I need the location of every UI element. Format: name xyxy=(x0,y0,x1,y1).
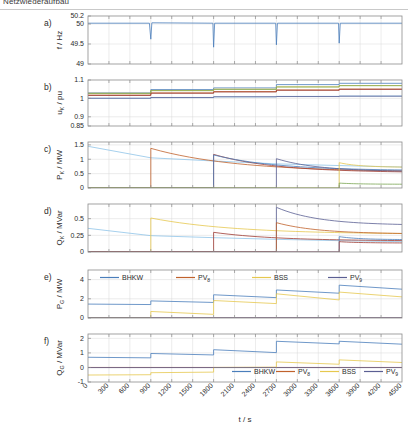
y-tick-label: 0.5 xyxy=(74,215,84,222)
svg-text:3000: 3000 xyxy=(282,382,298,398)
svg-text:2700: 2700 xyxy=(261,382,277,398)
x-tick-label: 3600 xyxy=(324,382,340,398)
x-tick-label: 3000 xyxy=(282,382,298,398)
panel-a: 4949.55050.2a)f / Hz xyxy=(44,12,402,67)
svg-text:1800: 1800 xyxy=(198,382,214,398)
x-tick-label: 600 xyxy=(117,382,130,395)
y-tick-label: 1 xyxy=(80,349,84,356)
svg-text:4500: 4500 xyxy=(387,382,403,398)
series-group xyxy=(88,23,402,47)
series-line xyxy=(88,242,402,252)
y-tick-label: 1 xyxy=(80,95,84,102)
legend-label: PV8 xyxy=(298,368,310,377)
series-group xyxy=(88,146,402,188)
figure-canvas: 4949.55050.2a)f / Hz0.850.911.1b)uK / pu… xyxy=(0,0,408,429)
y-tick-label: 1.1 xyxy=(74,76,84,83)
title-divider xyxy=(0,9,408,10)
legend-label: PV9 xyxy=(386,368,398,377)
series-line xyxy=(88,218,402,252)
y-axis-label-d: QK / MVar xyxy=(55,210,65,245)
series-line xyxy=(88,207,402,252)
svg-text:3900: 3900 xyxy=(345,382,361,398)
y-tick-label: 0.25 xyxy=(70,232,84,239)
y-tick-label: 0 xyxy=(80,314,84,321)
y-axis-label-c: PK / MW xyxy=(55,150,65,180)
series-line xyxy=(88,155,402,188)
y-tick-label: 1 xyxy=(80,156,84,163)
series-line xyxy=(88,237,402,252)
y-tick-label: 4 xyxy=(80,276,84,283)
legend-label: BHKW xyxy=(254,368,275,375)
svg-text:300: 300 xyxy=(96,382,109,395)
panel-e: 024e)PG / MWBHKWPV8BSSPV9 xyxy=(44,270,402,321)
series-line xyxy=(88,89,402,95)
svg-text:QK / MVar: QK / MVar xyxy=(55,210,65,245)
panel-label-e: e) xyxy=(44,272,52,282)
y-tick-label: 0.5 xyxy=(74,170,84,177)
y-tick-label: 50.2 xyxy=(70,12,84,19)
svg-text:uK / pu: uK / pu xyxy=(55,91,65,115)
x-tick-label: 3900 xyxy=(345,382,361,398)
axes-frame xyxy=(88,80,402,126)
svg-text:2100: 2100 xyxy=(219,382,235,398)
series-line xyxy=(88,163,402,188)
legend-label: PV8 xyxy=(198,274,210,283)
x-tick-label: 4500 xyxy=(387,382,403,398)
x-tick-label: 2700 xyxy=(261,382,277,398)
series-line xyxy=(88,341,402,358)
x-tick-label: 1500 xyxy=(177,382,193,398)
panel-b: 0.850.911.1b)uK / pu xyxy=(44,76,402,129)
legend-label: PV9 xyxy=(350,274,362,283)
y-tick-label: 49.5 xyxy=(70,40,84,47)
panel-label-f: f) xyxy=(44,336,49,346)
series-group xyxy=(88,207,402,252)
series-line xyxy=(88,23,402,47)
panel-c: 00.511.5c)PK / MW xyxy=(44,141,402,191)
series-line xyxy=(88,146,402,167)
legend-label: BSS xyxy=(342,368,356,375)
panel-label-c: c) xyxy=(44,144,51,154)
panel-d: 00.250.5d)QK / MVar xyxy=(44,204,402,255)
x-tick-label: 4200 xyxy=(366,382,382,398)
panel-f: -1012f)QG / MVarBHKWPV8BSSPV9 xyxy=(44,334,402,385)
x-tick-label: 3300 xyxy=(303,382,319,398)
svg-text:QG / MVar: QG / MVar xyxy=(55,340,65,376)
y-tick-label: 49 xyxy=(76,60,84,67)
y-tick-label: 0 xyxy=(80,364,84,371)
panel-label-b: b) xyxy=(44,82,52,92)
y-tick-label: 0 xyxy=(80,184,84,191)
y-axis-label-b: uK / pu xyxy=(55,91,65,115)
x-tick-label: 2400 xyxy=(240,382,256,398)
svg-text:1200: 1200 xyxy=(156,382,172,398)
series-group xyxy=(88,83,402,98)
series-line xyxy=(88,285,402,304)
legend-label: BHKW xyxy=(122,274,143,281)
y-axis-label-a: f / Hz xyxy=(55,31,64,50)
axes-frame xyxy=(88,204,402,252)
series-line xyxy=(88,228,402,241)
svg-text:4200: 4200 xyxy=(366,382,382,398)
y-tick-label: 0 xyxy=(80,248,84,255)
panel-label-a: a) xyxy=(44,18,52,28)
y-tick-label: 1.5 xyxy=(74,141,84,148)
x-tick-label: 1800 xyxy=(198,382,214,398)
y-tick-label: 0.85 xyxy=(70,122,84,129)
x-axis-label: t / s xyxy=(239,415,252,424)
y-tick-label: 2 xyxy=(80,295,84,302)
svg-text:600: 600 xyxy=(117,382,130,395)
y-axis-label-f: QG / MVar xyxy=(55,340,65,376)
svg-text:PK / MW: PK / MW xyxy=(55,150,65,180)
x-tick-label: 0 xyxy=(81,382,89,390)
y-tick-label: 50 xyxy=(76,20,84,27)
legend-label: BSS xyxy=(274,274,288,281)
y-tick-label: 0.9 xyxy=(74,113,84,120)
x-tick-label: 900 xyxy=(138,382,151,395)
series-line xyxy=(88,183,402,188)
y-tick-label: 2 xyxy=(80,335,84,342)
svg-text:f / Hz: f / Hz xyxy=(55,31,64,50)
x-tick-label: 1200 xyxy=(156,382,172,398)
svg-text:3600: 3600 xyxy=(324,382,340,398)
x-axis: 0300600900120015001800210024002700300033… xyxy=(81,382,403,424)
svg-text:3300: 3300 xyxy=(303,382,319,398)
svg-text:0: 0 xyxy=(81,382,89,390)
